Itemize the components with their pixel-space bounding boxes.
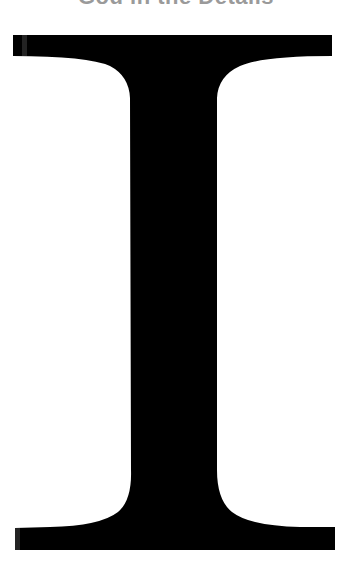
top-serif-highlight (22, 35, 27, 56)
serif-letter-i-icon (0, 0, 352, 576)
page: God in the Details (0, 0, 352, 576)
bottom-serif-highlight (15, 528, 20, 550)
letter-i-shape (13, 35, 335, 550)
